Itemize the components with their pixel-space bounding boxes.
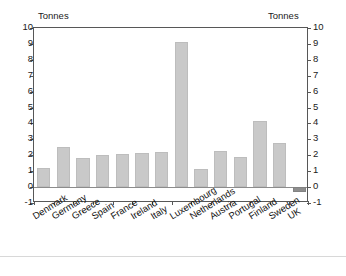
left-axis-unit-label: Tonnes — [38, 10, 69, 21]
x-tick — [308, 201, 309, 205]
bar-chart-figure: Tonnes Tonnes 101099887766554433221100-1… — [0, 0, 346, 276]
y-axis-tick-label-right: 1 — [313, 165, 335, 175]
y-axis-tick-label-left: 3 — [11, 133, 33, 143]
bar-finland — [253, 121, 266, 187]
zero-baseline — [34, 187, 307, 188]
bar-portugal — [234, 157, 247, 187]
y-axis-tick-label-left: 4 — [11, 117, 33, 127]
y-axis-tick-label-left: 7 — [11, 70, 33, 80]
y-axis-tick-label-left: 8 — [11, 54, 33, 64]
bar-sweden — [273, 143, 286, 187]
y-tick-right — [307, 28, 311, 29]
bar-netherlands — [194, 169, 207, 187]
y-tick-right — [307, 44, 311, 45]
y-tick-right — [307, 76, 311, 77]
y-axis-tick-label-right: 9 — [313, 38, 335, 48]
y-axis-tick-label-right: -1 — [313, 197, 335, 207]
y-axis-tick-label-left: 5 — [11, 102, 33, 112]
y-axis-tick-label-right: 5 — [313, 102, 335, 112]
bar-greece — [76, 158, 89, 187]
bar-austria — [214, 151, 227, 187]
bar-luxembourg — [175, 42, 188, 187]
y-axis-tick-label-left: 1 — [11, 165, 33, 175]
y-axis-tick-label-left: -1 — [11, 197, 33, 207]
figure-bottom-rule — [0, 256, 346, 257]
y-axis-tick-label-right: 8 — [313, 54, 335, 64]
bar-france — [116, 154, 129, 187]
y-axis-tick-label-left: 9 — [11, 38, 33, 48]
cropped-title-remnant — [60, 0, 310, 4]
y-tick-right — [307, 187, 311, 188]
plot-area — [33, 27, 308, 202]
y-axis-tick-label-left: 0 — [11, 181, 33, 191]
y-axis-tick-label-right: 7 — [313, 70, 335, 80]
y-tick-right — [307, 155, 311, 156]
x-tick — [172, 201, 173, 205]
y-axis-tick-label-right: 3 — [313, 133, 335, 143]
y-tick-right — [307, 108, 311, 109]
y-axis-tick-label-right: 6 — [313, 86, 335, 96]
bar-spain — [96, 155, 109, 187]
y-tick-right — [307, 60, 311, 61]
right-axis-unit-label: Tonnes — [268, 10, 299, 21]
y-tick-right — [307, 139, 311, 140]
y-tick-right — [307, 123, 311, 124]
y-tick-right — [307, 92, 311, 93]
bar-italy — [155, 152, 168, 187]
bar-denmark — [37, 168, 50, 187]
y-tick-right — [307, 171, 311, 172]
y-axis-tick-label-right: 2 — [313, 149, 335, 159]
bar-ireland — [135, 153, 148, 187]
bar-uk — [293, 187, 306, 192]
y-axis-tick-label-left: 6 — [11, 86, 33, 96]
plot-inner — [34, 28, 307, 201]
x-tick — [34, 201, 35, 205]
y-axis-tick-label-left: 2 — [11, 149, 33, 159]
y-axis-tick-label-right: 4 — [313, 117, 335, 127]
bar-germany — [57, 147, 70, 187]
y-axis-tick-label-right: 0 — [313, 181, 335, 191]
y-axis-tick-label-right: 10 — [313, 22, 335, 32]
y-axis-tick-label-left: 10 — [11, 22, 33, 32]
